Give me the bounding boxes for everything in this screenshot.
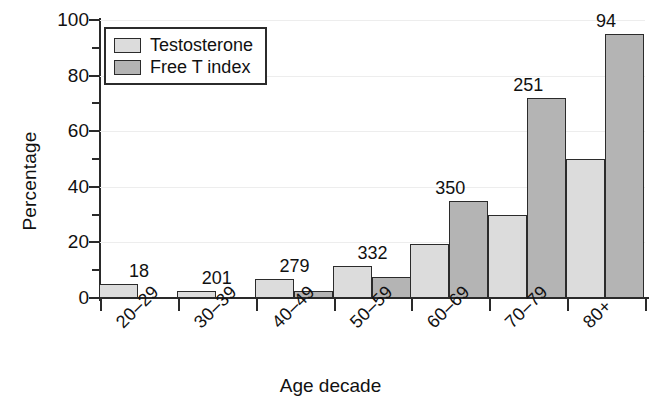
group-count-label: 18 — [100, 262, 178, 280]
x-axis-title: Age decade — [0, 375, 661, 397]
y-tick-label: 80 — [41, 66, 89, 85]
x-tick — [178, 299, 180, 311]
y-tick-label: 60 — [41, 121, 89, 140]
y-tick-minor — [92, 158, 100, 160]
legend-item-testosterone: Testosterone — [114, 34, 253, 56]
y-tick-label: 40 — [41, 177, 89, 196]
y-tick-major — [89, 186, 100, 188]
y-tick-minor — [92, 269, 100, 271]
y-tick-label: 20 — [41, 232, 89, 251]
y-tick-major — [89, 241, 100, 243]
x-tick — [100, 299, 102, 311]
legend-swatch-testosterone — [114, 38, 141, 53]
y-tick-minor — [92, 214, 100, 216]
group-count-label: 251 — [489, 76, 567, 94]
x-category-label: 80+ — [579, 296, 616, 333]
bar-free-t-index — [527, 98, 566, 298]
group-count-label: 94 — [567, 12, 645, 30]
bar-free-t-index — [605, 34, 644, 298]
bar-chart-figure: Percentage 020406080100 20–2930–3940–495… — [0, 0, 661, 400]
y-tick-label: 100 — [41, 10, 89, 29]
group-count-label: 350 — [411, 179, 489, 197]
y-tick-minor — [92, 102, 100, 104]
chart-legend: Testosterone Free T index — [104, 27, 267, 85]
gridline — [100, 20, 645, 21]
x-tick — [489, 299, 491, 311]
y-tick-major — [89, 297, 100, 299]
bar-free-t-index — [449, 201, 488, 298]
group-count-label: 201 — [178, 269, 256, 287]
bar-testosterone — [333, 266, 372, 298]
group-count-label: 332 — [334, 244, 412, 262]
y-tick-major — [89, 130, 100, 132]
y-tick-minor — [92, 47, 100, 49]
y-tick-label: 0 — [41, 288, 89, 307]
x-tick — [411, 299, 413, 311]
legend-item-free-t-index: Free T index — [114, 56, 253, 78]
group-count-label: 279 — [256, 257, 334, 275]
legend-swatch-free-t-index — [114, 60, 141, 75]
legend-label-testosterone: Testosterone — [150, 36, 253, 54]
legend-label-free-t-index: Free T index — [150, 58, 250, 76]
bar-testosterone — [255, 279, 294, 298]
y-tick-major — [89, 19, 100, 21]
x-tick — [256, 299, 258, 311]
x-tick — [334, 299, 336, 311]
y-axis-title: Percentage — [19, 91, 41, 271]
bar-testosterone — [99, 284, 138, 298]
y-tick-major — [89, 75, 100, 77]
x-tick — [645, 299, 647, 311]
bar-testosterone — [410, 244, 449, 298]
x-tick — [567, 299, 569, 311]
bar-testosterone — [566, 159, 605, 298]
bar-testosterone — [488, 215, 527, 298]
